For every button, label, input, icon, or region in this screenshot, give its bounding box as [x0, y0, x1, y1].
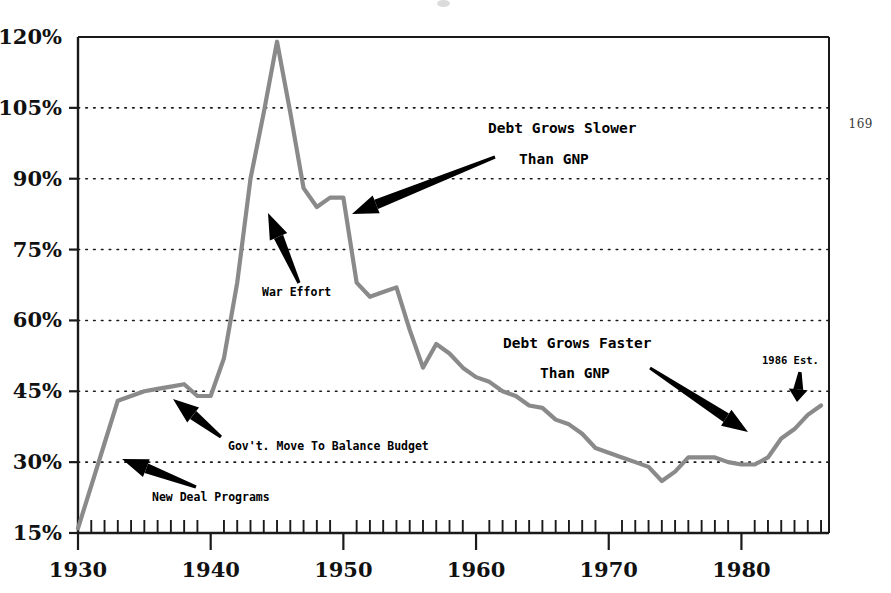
x-axis-minor-ticks	[91, 520, 821, 533]
y-tick-label: 45%	[13, 378, 62, 403]
annotation-arrow-war-effort	[268, 213, 300, 284]
arrow-head	[789, 388, 808, 402]
y-tick-label: 30%	[13, 449, 62, 474]
arrow-shaft	[793, 372, 803, 390]
annotation-arrow-debt-faster	[649, 367, 748, 432]
annotation-arrow-balance-budget	[173, 399, 222, 438]
y-tick-label: 120%	[0, 24, 62, 49]
arrow-shaft	[190, 411, 222, 438]
y-tick-label: 60%	[13, 307, 62, 332]
y-tick-label: 75%	[13, 237, 62, 262]
debt-percent-gnp-line	[78, 42, 821, 529]
data-series-line	[78, 42, 821, 529]
annotation-text-debt-slower-line1: Debt Grows Slower	[488, 120, 637, 136]
annotation-text-debt-faster-line1: Debt Grows Faster	[503, 335, 652, 351]
arrow-head	[268, 213, 287, 241]
y-axis-tick-labels: 15%30%45%60%75%90%105%120%	[0, 24, 62, 545]
x-axis-major-ticks	[78, 533, 741, 550]
x-tick-label: 1960	[447, 557, 505, 582]
chart-page: 169 15%30%45%60%75%90%105%120% 193019401…	[0, 0, 891, 593]
annotation-text-debt-slower-line2: Than GNP	[519, 151, 589, 167]
annotations-layer: New Deal ProgramsGov't. Move To Balance …	[122, 120, 819, 504]
annotation-text-war-effort: War Effort	[262, 285, 331, 299]
annotation-text-debt-faster-line2: Than GNP	[540, 365, 610, 381]
arrow-shaft	[145, 464, 197, 489]
arrow-shaft	[649, 367, 729, 422]
x-tick-label: 1970	[580, 557, 638, 582]
arrow-head	[352, 196, 380, 214]
arrow-shaft	[374, 156, 495, 210]
debt-to-gnp-line-chart: 15%30%45%60%75%90%105%120% 1930194019501…	[0, 0, 891, 593]
y-axis-ticks	[69, 108, 78, 533]
annotation-arrow-new-deal	[122, 459, 197, 489]
annotation-arrow-est-1986	[789, 372, 808, 402]
x-tick-label: 1940	[181, 557, 239, 582]
annotation-arrow-debt-slower	[352, 156, 496, 214]
arrow-shaft	[274, 235, 301, 284]
arrow-head	[122, 459, 150, 477]
x-tick-label: 1930	[49, 557, 107, 582]
annotation-text-est-1986: 1986 Est.	[762, 354, 819, 366]
x-tick-label: 1980	[712, 557, 770, 582]
x-tick-label: 1950	[314, 557, 372, 582]
x-axis-tick-labels: 193019401950196019701980	[49, 557, 771, 582]
y-tick-label: 90%	[13, 166, 62, 191]
y-tick-label: 15%	[13, 520, 62, 545]
annotation-text-balance-budget: Gov't. Move To Balance Budget	[228, 439, 429, 453]
annotation-text-new-deal: New Deal Programs	[152, 490, 270, 504]
y-tick-label: 105%	[0, 95, 62, 120]
